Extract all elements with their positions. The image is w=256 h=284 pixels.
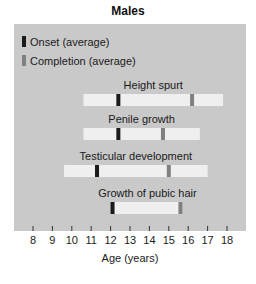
bar-label-penile-growth: Penile growth <box>108 113 175 125</box>
range-bar-testicular-development <box>64 165 208 177</box>
completion-marker-height-spurt <box>190 94 194 106</box>
onset-marker-growth-of-pubic-hair <box>111 202 115 214</box>
legend-swatch-onset <box>22 36 26 47</box>
x-tick-label: 17 <box>201 234 213 246</box>
onset-marker-testicular-development <box>95 165 99 177</box>
x-tick-label: 9 <box>49 234 55 246</box>
bar-label-testicular-development: Testicular development <box>80 150 193 162</box>
chart-svg: Onset (average)Completion (average)Heigh… <box>0 0 256 284</box>
completion-marker-growth-of-pubic-hair <box>178 202 182 214</box>
range-bar-penile-growth <box>83 128 199 140</box>
onset-marker-penile-growth <box>116 128 120 140</box>
x-tick-label: 8 <box>30 234 36 246</box>
completion-marker-testicular-development <box>167 165 171 177</box>
x-tick-label: 13 <box>124 234 136 246</box>
completion-marker-penile-growth <box>161 128 165 140</box>
x-tick-label: 14 <box>143 234 155 246</box>
legend-label: Onset (average) <box>30 36 109 48</box>
legend-label: Completion (average) <box>30 55 136 67</box>
bar-label-growth-of-pubic-hair: Growth of pubic hair <box>98 187 197 199</box>
range-bar-growth-of-pubic-hair <box>113 202 183 214</box>
x-tick-label: 11 <box>85 234 96 246</box>
x-tick-label: 16 <box>182 234 194 246</box>
bar-label-height-spurt: Height spurt <box>124 79 183 91</box>
x-tick-label: 12 <box>104 234 116 246</box>
legend-swatch-completion <box>22 55 26 66</box>
x-tick-label: 15 <box>163 234 175 246</box>
x-tick-label: 10 <box>66 234 78 246</box>
x-tick-label: 18 <box>221 234 233 246</box>
onset-marker-height-spurt <box>116 94 120 106</box>
x-axis-label: Age (years) <box>102 252 159 264</box>
range-bar-height-spurt <box>83 94 223 106</box>
